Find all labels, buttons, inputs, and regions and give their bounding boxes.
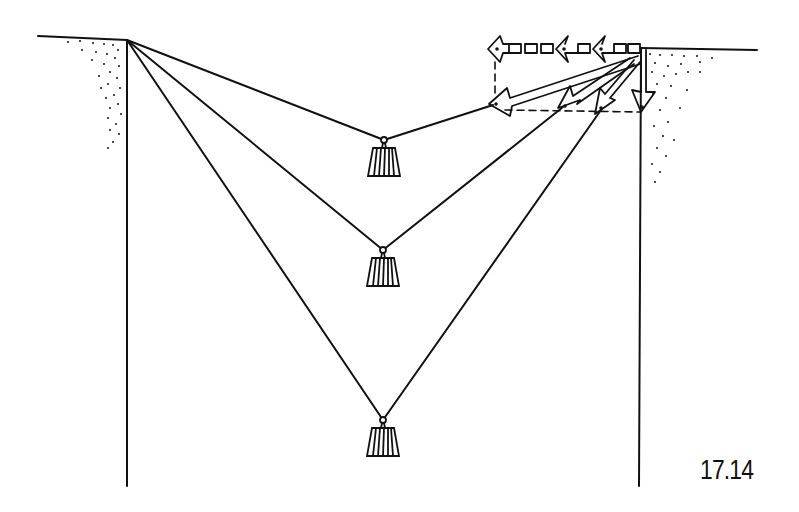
diagram-canvas: 17.14 bbox=[0, 0, 799, 512]
left-cliff bbox=[38, 36, 127, 486]
cable-shallow bbox=[127, 40, 493, 140]
diagonal-force-arrows bbox=[489, 50, 655, 116]
cable-deep bbox=[127, 40, 601, 420]
weight-deep bbox=[367, 417, 399, 456]
weight-shallow bbox=[368, 137, 400, 176]
weight-medium bbox=[367, 247, 399, 286]
cable-medium bbox=[127, 40, 563, 250]
figure-label: 17.14 bbox=[700, 455, 753, 486]
right-cliff bbox=[639, 48, 757, 486]
diagram-svg bbox=[0, 0, 799, 512]
